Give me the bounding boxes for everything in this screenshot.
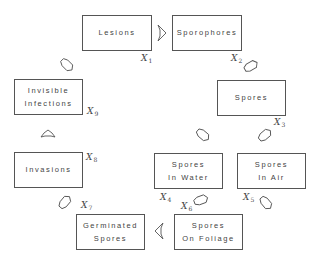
arrow-diagonal-icon [57,194,72,210]
arrow-left-icon [155,223,163,239]
arrow-diagonal-icon [193,194,209,206]
arrow-up-icon [41,130,55,137]
arrow-diagonal-icon [195,127,211,142]
arrow-diagonal-icon [258,195,273,211]
arrow-diagonal-icon [243,59,259,73]
arrows-layer [0,0,319,262]
arrow-diagonal-icon [59,57,75,73]
arrow-diagonal-icon [257,127,273,142]
arrow-right-icon [158,25,166,41]
